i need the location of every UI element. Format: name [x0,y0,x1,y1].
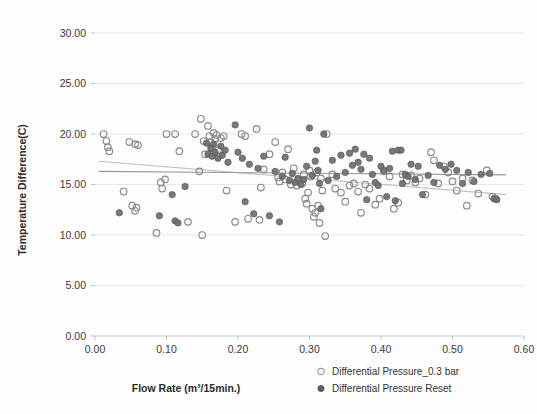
data-point [349,162,355,168]
data-point [405,173,411,179]
data-point [321,131,327,137]
data-point [242,198,248,204]
data-point [156,213,162,219]
data-point [313,147,319,153]
data-point [358,166,364,172]
data-point [285,146,292,153]
data-point [225,159,231,165]
data-point [210,141,216,147]
legend-marker-open-circle-icon [318,368,324,374]
data-point [232,122,238,128]
data-point [242,133,249,140]
data-point [279,173,285,179]
data-point [386,173,393,180]
data-point [355,159,361,165]
data-point [303,200,310,207]
data-point [351,180,358,187]
data-point [116,210,122,216]
data-point [198,116,205,123]
data-point [448,161,454,167]
data-point [182,183,188,189]
x-tick-label-0.60: 0.60 [514,343,535,355]
y-tick-label-25.00: 25.00 [60,77,86,89]
data-point [256,217,263,224]
data-point [376,195,383,202]
data-point [192,131,199,138]
data-point [372,201,379,208]
data-point [196,168,203,175]
data-point [133,204,140,211]
data-point [318,206,324,212]
data-point [364,196,370,202]
data-point [251,211,257,217]
data-point [366,155,372,161]
legend-marker-filled-circle-icon [318,385,324,391]
data-point [366,185,373,192]
x-tick-label-0.30: 0.30 [299,343,320,355]
data-point [205,123,212,130]
data-point [255,165,261,171]
data-point [260,166,267,173]
data-point [449,178,456,185]
data-point [375,182,381,188]
data-point [436,162,442,168]
data-point [100,131,107,138]
data-point [342,198,349,205]
y-tick-label-30.00: 30.00 [60,27,86,39]
data-point [176,148,183,155]
data-point [333,173,339,179]
data-point [172,131,179,138]
data-point [475,190,482,197]
data-point [342,169,348,175]
x-tick-label-0.20: 0.20 [228,343,249,355]
data-point [276,219,282,225]
data-point [454,167,460,173]
data-point [384,193,390,199]
data-point [431,179,437,185]
data-point [135,142,142,149]
data-point [408,161,414,167]
data-point [212,149,218,155]
data-point [415,163,421,169]
data-point [305,189,312,196]
data-point [319,187,326,194]
y-tick-label-10.00: 10.00 [60,229,86,241]
data-point [232,219,239,226]
data-point [169,191,175,197]
data-point [295,175,301,181]
data-point [261,153,267,159]
data-point [272,168,278,174]
data-point [312,209,319,216]
data-point [106,148,113,155]
data-point [303,163,309,169]
data-point [222,147,228,153]
chart-canvas: 0.005.0010.0015.0020.0025.0030.00 0.000.… [0,0,537,414]
data-point [220,133,227,140]
data-point [453,187,460,194]
data-point [355,188,362,195]
data-point [464,202,471,209]
x-tick-label-0.50: 0.50 [442,343,463,355]
data-point [391,205,398,212]
data-point [386,165,392,171]
data-point [246,161,252,167]
data-point [322,233,329,240]
data-point [199,232,206,239]
y-axis-title: Temperature Difference(C) [16,124,28,256]
data-point [431,157,438,164]
data-point [412,176,418,182]
data-point [346,150,352,156]
data-point [358,209,365,216]
data-point [266,213,272,219]
data-point [471,178,477,184]
data-point [428,149,435,156]
data-point [253,126,260,133]
data-point [258,184,265,191]
data-point [442,166,448,172]
x-tick-label-0.10: 0.10 [156,343,177,355]
y-tick-label-5.00: 5.00 [66,279,87,291]
data-point [175,220,181,226]
data-point [361,151,367,157]
data-point [301,176,307,182]
data-point [419,191,425,197]
